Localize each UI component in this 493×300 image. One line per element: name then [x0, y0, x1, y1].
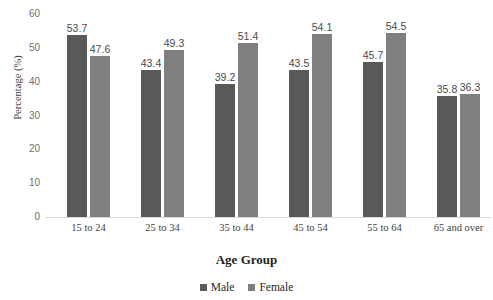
- bar-pair: 35.836.3: [437, 14, 480, 217]
- bar-female[interactable]: 51.4: [238, 43, 258, 217]
- bar-pair: 43.449.3: [141, 14, 184, 217]
- bar-value-label: 49.3: [164, 38, 184, 49]
- y-axis-tick-0: 0: [14, 212, 40, 222]
- legend-entry-female[interactable]: Female: [248, 281, 293, 293]
- y-axis-tick-20: 20: [14, 144, 40, 154]
- y-axis-tick-60: 60: [14, 9, 40, 19]
- bar-value-label: 54.5: [386, 21, 406, 32]
- bar-pair: 43.554.1: [289, 14, 332, 217]
- bar-male[interactable]: 53.7: [67, 35, 87, 217]
- bar-pair: 45.754.5: [363, 14, 406, 217]
- bar-male[interactable]: 43.5: [289, 70, 309, 217]
- bar-value-label: 54.1: [312, 22, 332, 33]
- plot-area: 53.747.643.449.339.251.443.554.145.754.5…: [45, 14, 489, 217]
- legend-swatch-icon: [248, 284, 255, 291]
- bar-value-label: 45.7: [363, 50, 383, 61]
- bar-female[interactable]: 36.3: [460, 94, 480, 217]
- bar-female[interactable]: 54.1: [312, 34, 332, 217]
- bar-male[interactable]: 39.2: [215, 84, 235, 217]
- y-axis-tick-30: 30: [14, 111, 40, 121]
- bar-male[interactable]: 43.4: [141, 70, 161, 217]
- bar-male[interactable]: 45.7: [363, 62, 383, 217]
- bar-value-label: 36.3: [460, 82, 480, 93]
- legend-label: Male: [211, 281, 235, 293]
- x-axis-label-65-and-over: 65 and over: [414, 222, 493, 233]
- bar-value-label: 53.7: [67, 23, 87, 34]
- y-axis-tick-10: 10: [14, 178, 40, 188]
- bar-value-label: 35.8: [437, 84, 457, 95]
- bar-male[interactable]: 35.8: [437, 96, 457, 217]
- bar-chart: Percentage (%) 0102030405060 53.747.643.…: [0, 0, 493, 300]
- legend-entry-male[interactable]: Male: [200, 281, 235, 293]
- y-axis-tick-50: 50: [14, 43, 40, 53]
- bar-value-label: 51.4: [238, 31, 258, 42]
- bar-value-label: 43.4: [141, 58, 161, 69]
- x-axis-title: Age Group: [0, 252, 493, 268]
- legend-swatch-icon: [200, 284, 207, 291]
- chart-legend: MaleFemale: [0, 281, 493, 293]
- bar-pair: 53.747.6: [67, 14, 110, 217]
- legend-label: Female: [259, 281, 293, 293]
- chart-title-clipped: [0, 0, 493, 3]
- y-axis-tick-40: 40: [14, 77, 40, 87]
- bar-value-label: 43.5: [289, 58, 309, 69]
- bar-value-label: 47.6: [90, 44, 110, 55]
- bar-value-label: 39.2: [215, 72, 235, 83]
- bar-female[interactable]: 54.5: [386, 33, 406, 217]
- x-axis-line: [45, 217, 491, 218]
- bar-female[interactable]: 47.6: [90, 56, 110, 217]
- bar-pair: 39.251.4: [215, 14, 258, 217]
- bar-female[interactable]: 49.3: [164, 50, 184, 217]
